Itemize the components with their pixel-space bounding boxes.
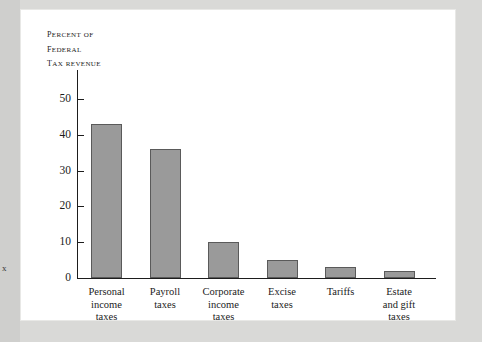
x-axis-label-line: and gift (359, 299, 439, 312)
bar (384, 271, 415, 278)
y-tick-mark (78, 278, 84, 279)
y-axis-title-line-2: Federal (47, 42, 177, 57)
y-axis-title-line-3: Tax Revenue (47, 56, 177, 71)
bar (267, 260, 298, 278)
x-axis-label-line: Estate (359, 286, 439, 299)
bar (208, 242, 239, 278)
bar (150, 149, 181, 278)
y-axis-line (77, 70, 78, 279)
x-axis-label-line: taxes (359, 311, 439, 324)
y-tick-mark (78, 242, 84, 243)
y-tick-mark (78, 171, 84, 172)
y-tick-label: 20 (43, 200, 71, 212)
y-tick-label: 10 (43, 236, 71, 248)
y-axis-title-line-1: Percent of (47, 27, 177, 42)
y-tick-label: 30 (43, 165, 71, 177)
figure-card: Percent of Federal Tax Revenue 010203040… (21, 10, 455, 320)
x-axis-label: Estateand gifttaxes (359, 286, 439, 324)
y-tick-label: 40 (43, 129, 71, 141)
bar (91, 124, 122, 278)
y-tick-mark (78, 206, 84, 207)
y-axis-title: Percent of Federal Tax Revenue (47, 27, 177, 71)
y-tick-mark (78, 135, 84, 136)
page-left-edge-band (0, 0, 20, 342)
y-tick-label: 0 (43, 272, 71, 284)
bar-chart: Percent of Federal Tax Revenue 010203040… (21, 10, 455, 320)
y-tick-mark (78, 99, 84, 100)
x-axis-label-line: taxes (184, 311, 264, 324)
x-axis-label-line: taxes (67, 311, 147, 324)
page-edge-artifact: x (2, 264, 9, 272)
x-axis-line (77, 278, 436, 279)
x-axis-label-line: taxes (242, 299, 322, 312)
bar (325, 267, 356, 278)
y-tick-label: 50 (43, 93, 71, 105)
